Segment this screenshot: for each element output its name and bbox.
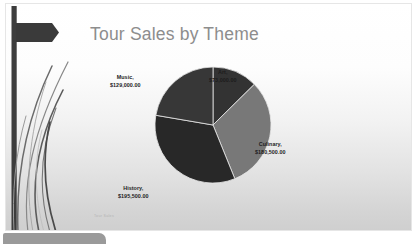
pie-chart[interactable]: Music, $129,000.00 Art, $73,000.00 Culin… [96,62,376,227]
bottom-strip [0,233,418,244]
pie-label-art-value: $73,000.00 [209,77,236,85]
pie-label-history: History, $195,500.00 [118,185,149,201]
chart-footnote: Tour Sales [94,214,114,218]
pie-label-history-name: History, [118,185,149,193]
bottom-tab[interactable] [3,233,106,244]
app-surface: Tour Sales by Theme Music, $129,000.00 A… [0,0,418,244]
pie-label-music-name: Music, [110,74,141,82]
pie-label-culinary-name: Culinary, [255,141,286,149]
pie-slice-music[interactable] [156,67,213,125]
pie-label-culinary: Culinary, $180,500.00 [255,141,286,157]
pie-label-music: Music, $129,000.00 [110,74,141,90]
pie-label-history-value: $195,500.00 [118,193,149,201]
slide-title: Tour Sales by Theme [90,24,259,45]
pie-label-art: Art, $73,000.00 [209,69,236,85]
pie-label-music-value: $129,000.00 [110,82,141,90]
pie-label-culinary-value: $180,500.00 [255,149,286,157]
slide-canvas[interactable]: Tour Sales by Theme Music, $129,000.00 A… [5,3,412,231]
pie-label-art-name: Art, [209,69,236,77]
